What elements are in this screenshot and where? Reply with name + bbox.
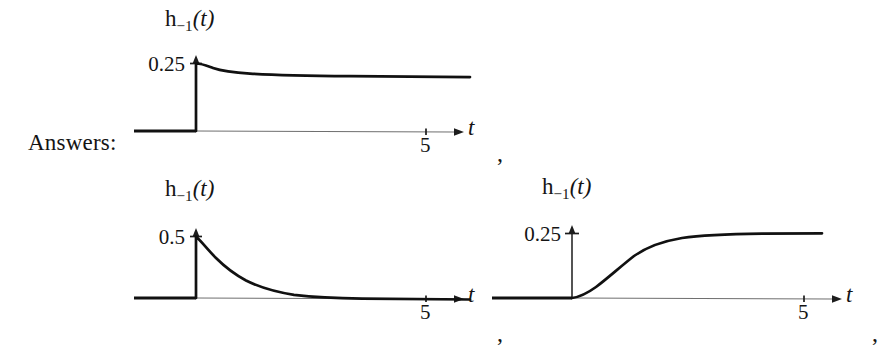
plot-bottom-right-fn-argument: (t) (570, 174, 592, 199)
plot-top-x-axis (196, 131, 454, 132)
plot-bottom-right-signal-curve (572, 233, 822, 298)
plot-bottom-right-y-tick-label: 0.25 (489, 222, 561, 247)
comma-after-plot-top: , (497, 140, 503, 167)
plot-bottom-left-signal-curve (196, 237, 470, 300)
plot-top-x-axis-label: t (468, 115, 474, 141)
comma-3-text: , (872, 320, 878, 346)
plot-bottom-right-y-axis-arrow (568, 225, 575, 234)
plot-bottom-left-x-tick-text: 5 (420, 300, 431, 324)
plot-bottom-right-x-axis-name-text: t (846, 282, 852, 307)
plot-top-x-axis-name-text: t (468, 115, 474, 140)
plot-bottom-right-x-tick-text: 5 (798, 300, 809, 324)
plot-bottom-left-x-tick-label: 5 (420, 300, 431, 325)
plot-top-canvas (110, 14, 510, 154)
plot-bottom-left-fn-argument: (t) (193, 176, 215, 201)
plot-top-x-tick-text: 5 (420, 133, 431, 157)
plot-top-function-label: h−1(t) (165, 6, 214, 35)
plot-top-fn-argument: (t) (193, 6, 215, 31)
plot-bottom-right: h−1(t) 0.25 5 t (486, 180, 894, 330)
plot-top-y-tick-text: 0.25 (148, 52, 185, 76)
comma-after-plot-bottom-right: , (872, 320, 878, 347)
plot-top-signal-curve (196, 64, 470, 132)
plot-bottom-right-x-axis-arrow (832, 295, 842, 303)
plot-bottom-left-x-axis-name-text: t (468, 282, 474, 307)
plot-bottom-right-function-label: h−1(t) (542, 174, 591, 203)
plot-bottom-right-x-axis-label: t (846, 282, 852, 308)
plot-bottom-left-y-tick-label: 0.5 (124, 225, 185, 250)
plot-bottom-left-function-label: h−1(t) (165, 176, 214, 205)
plot-top-y-tick-label: 0.25 (113, 52, 185, 77)
plot-bottom-right-y-tick-text: 0.25 (524, 222, 561, 246)
comma-1-text: , (497, 140, 503, 166)
plot-bottom-left: h−1(t) 0.5 5 t (110, 180, 510, 330)
plot-bottom-left-fn-base: h (165, 176, 177, 201)
answers-figure: Answers: h−1(t) 0.25 5 t , (0, 0, 894, 357)
plot-top-fn-base: h (165, 6, 177, 31)
plot-bottom-left-fn-subscript: −1 (177, 187, 193, 204)
plot-bottom-left-y-tick-text: 0.5 (159, 225, 185, 249)
plot-top: h−1(t) 0.25 5 t (110, 14, 510, 154)
plot-top-x-axis-arrow (454, 128, 464, 136)
plot-top-fn-subscript: −1 (177, 17, 193, 34)
plot-bottom-right-fn-subscript: −1 (554, 185, 570, 202)
plot-bottom-right-fn-base: h (542, 174, 554, 199)
plot-bottom-right-x-tick-label: 5 (798, 300, 809, 325)
plot-bottom-right-x-axis (572, 298, 832, 299)
answers-caption: Answers: (28, 130, 116, 156)
plot-bottom-left-x-axis-label: t (468, 282, 474, 308)
plot-top-x-tick-label: 5 (420, 133, 431, 158)
